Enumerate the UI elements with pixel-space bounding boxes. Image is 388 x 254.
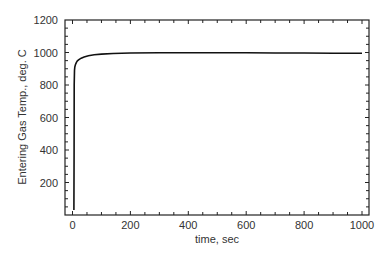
x-tick-label: 0 [69,219,75,231]
y-tick-labels: 20040060080010001200 [34,14,58,189]
y-tick-label: 400 [40,144,58,156]
y-tick-label: 200 [40,177,58,189]
x-tick-label: 400 [179,219,197,231]
data-line [74,53,362,210]
y-tick-label: 600 [40,112,58,124]
line-chart: 02004006008001000 20040060080010001200 t… [0,0,388,254]
plot-frame [65,20,369,215]
y-tick-label: 1000 [34,47,58,59]
axis-ticks [65,20,369,215]
x-tick-label: 1000 [350,219,374,231]
y-tick-label: 1200 [34,14,58,26]
x-tick-labels: 02004006008001000 [69,219,374,231]
x-axis-label: time, sec [195,233,240,245]
y-axis-label: Entering Gas Temp., deg. C [16,49,28,185]
x-tick-label: 800 [295,219,313,231]
x-tick-label: 200 [121,219,139,231]
y-tick-label: 800 [40,79,58,91]
x-tick-label: 600 [237,219,255,231]
